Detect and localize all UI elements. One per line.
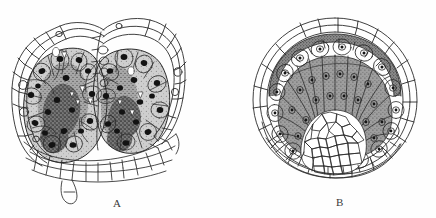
histology-plate: A B <box>0 0 436 218</box>
figure-label-b: B <box>336 196 344 208</box>
panel-a-figure <box>12 18 186 203</box>
plate-drawing <box>0 0 436 218</box>
figure-label-a: A <box>113 197 121 209</box>
panel-b-figure <box>253 18 417 178</box>
